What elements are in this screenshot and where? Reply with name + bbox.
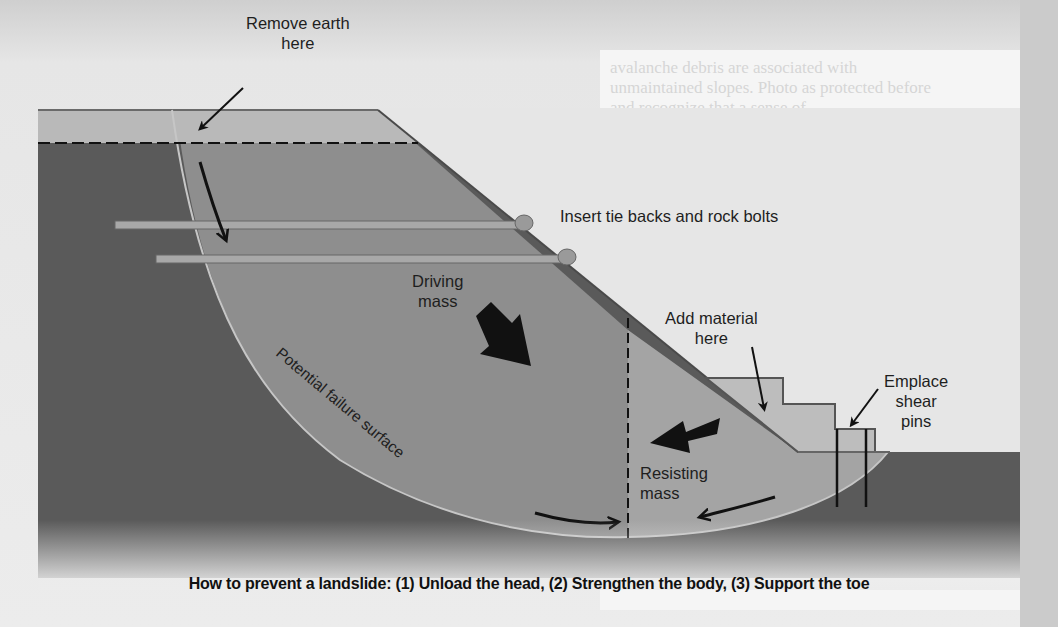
label-line: Add material	[665, 308, 758, 328]
label-driving-mass: Driving mass	[412, 271, 463, 311]
label-add-material: Add material here	[665, 308, 758, 348]
label-resisting-mass: Resisting mass	[640, 463, 708, 503]
figure-caption: How to prevent a landslide: (1) Unload t…	[38, 575, 1020, 593]
label-line: here	[246, 33, 350, 53]
label-line: Driving	[412, 271, 463, 291]
label-emplace-shear-pins: Emplace shear pins	[884, 371, 948, 431]
label-insert-tie-backs: Insert tie backs and rock bolts	[560, 206, 778, 226]
label-line: here	[665, 328, 758, 348]
landslide-prevention-diagram	[0, 0, 1058, 627]
label-remove-earth: Remove earth here	[246, 13, 350, 53]
head-cap-to-remove	[38, 110, 418, 143]
label-line: Resisting	[640, 463, 708, 483]
label-line: shear	[884, 391, 948, 411]
label-line: mass	[412, 291, 463, 311]
label-line: mass	[640, 483, 708, 503]
label-line: Emplace	[884, 371, 948, 391]
label-line: pins	[884, 411, 948, 431]
label-line: Remove earth	[246, 13, 350, 33]
